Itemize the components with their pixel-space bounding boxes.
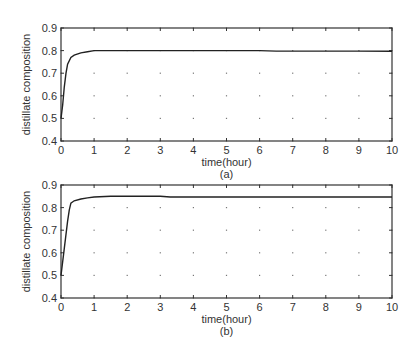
y-tick-label: 0.9 (42, 179, 57, 191)
x-tick-label: 10 (386, 301, 398, 313)
y-tick-label: 0.6 (42, 247, 57, 259)
subplot-b: 0123456789100.40.50.60.70.80.9distillate… (20, 179, 398, 337)
x-tick-label: 3 (157, 144, 163, 156)
chart-figure: 0123456789100.40.50.60.70.80.9distillate… (0, 0, 416, 357)
y-tick-label: 0.8 (42, 45, 57, 57)
y-tick-label: 0.4 (42, 292, 57, 304)
x-tick-label: 7 (290, 301, 296, 313)
subplot-a: 0123456789100.40.50.60.70.80.9distillate… (20, 22, 398, 180)
x-tick-label: 4 (190, 301, 196, 313)
x-tick-label: 4 (190, 144, 196, 156)
x-tick-label: 9 (356, 144, 362, 156)
x-tick-label: 1 (91, 144, 97, 156)
y-tick-label: 0.7 (42, 224, 57, 236)
series-line (61, 51, 392, 119)
grid-dots (60, 27, 392, 141)
y-tick-label: 0.6 (42, 90, 57, 102)
x-tick-label: 9 (356, 301, 362, 313)
panel-label: (a) (220, 168, 233, 180)
y-axis-label: distillate composition (20, 34, 32, 136)
y-tick-label: 0.5 (42, 269, 57, 281)
x-tick-label: 6 (257, 144, 263, 156)
y-tick-label: 0.8 (42, 202, 57, 214)
y-axis: 0.40.50.60.70.80.9 (42, 22, 392, 147)
x-axis-label: time(hour) (201, 156, 251, 168)
y-axis-label: distillate composition (20, 191, 32, 293)
axes-frame (61, 185, 392, 298)
y-axis: 0.40.50.60.70.80.9 (42, 179, 392, 304)
axes-frame (61, 28, 392, 141)
grid-dots (60, 184, 392, 298)
x-tick-label: 10 (386, 144, 398, 156)
y-tick-label: 0.7 (42, 67, 57, 79)
x-tick-label: 2 (124, 301, 130, 313)
x-axis-label: time(hour) (201, 313, 251, 325)
y-tick-label: 0.9 (42, 22, 57, 34)
x-axis: 012345678910 (58, 28, 398, 156)
x-tick-label: 1 (91, 301, 97, 313)
x-tick-label: 0 (58, 144, 64, 156)
y-tick-label: 0.4 (42, 135, 57, 147)
x-tick-label: 6 (257, 301, 263, 313)
x-tick-label: 2 (124, 144, 130, 156)
x-tick-label: 8 (323, 301, 329, 313)
x-tick-label: 7 (290, 144, 296, 156)
x-tick-label: 5 (223, 301, 229, 313)
x-tick-label: 0 (58, 301, 64, 313)
x-tick-label: 5 (223, 144, 229, 156)
x-tick-label: 8 (323, 144, 329, 156)
y-tick-label: 0.5 (42, 112, 57, 124)
panel-label: (b) (220, 325, 233, 337)
x-axis: 012345678910 (58, 185, 398, 313)
x-tick-label: 3 (157, 301, 163, 313)
